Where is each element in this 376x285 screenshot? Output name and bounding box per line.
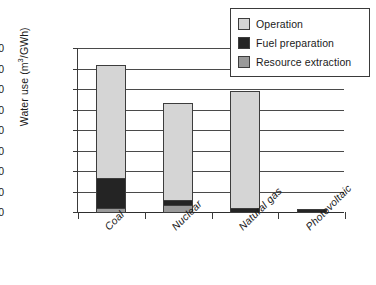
x-axis-tick-label: Photovoltaic <box>303 182 354 233</box>
y-axis-tick-label: 1500 <box>0 145 4 157</box>
y-tick-mark <box>73 89 78 90</box>
x-tick-mark <box>145 212 146 219</box>
y-tick-mark <box>73 110 78 111</box>
y-tick-mark <box>73 69 78 70</box>
y-axis-title: Water use (m3/GWh) <box>16 0 30 162</box>
y-tick-mark <box>73 151 78 152</box>
legend-swatch-icon <box>238 56 250 68</box>
y-axis-title-suffix: /GWh) <box>18 27 30 58</box>
y-axis-tick-label: 2000 <box>0 124 4 136</box>
y-axis-tick-label: 500 <box>0 186 4 198</box>
bar-segment-operation <box>230 91 260 209</box>
x-tick-mark <box>278 212 279 219</box>
y-axis-tick-label: 3500 <box>0 63 4 75</box>
chart-legend: OperationFuel preparationResource extrac… <box>230 8 370 77</box>
bar-nuclear <box>163 103 193 212</box>
x-tick-mark <box>212 212 213 219</box>
y-axis-tick-label: 4000 <box>0 42 4 54</box>
legend-item: Fuel preparation <box>238 33 363 52</box>
legend-item-label: Fuel preparation <box>256 37 334 49</box>
bar-coal <box>96 65 126 212</box>
legend-swatch-icon <box>238 37 250 49</box>
y-tick-mark <box>73 48 78 49</box>
legend-item-label: Resource extraction <box>256 56 351 68</box>
legend-item-label: Operation <box>256 18 303 30</box>
legend-item: Resource extraction <box>238 52 363 71</box>
x-tick-mark <box>78 212 79 219</box>
bar-natural-gas <box>230 91 260 212</box>
bar-segment-fuel-preparation <box>96 178 126 209</box>
water-use-stacked-bar-chart: Water use (m3/GWh) 050010001500200025003… <box>0 0 376 285</box>
y-axis-title-superscript: 3 <box>16 58 25 62</box>
y-tick-mark <box>73 171 78 172</box>
y-axis-tick-label: 1000 <box>0 165 4 177</box>
y-axis-title-prefix: Water use (m <box>18 62 30 126</box>
y-axis-tick-label: 3000 <box>0 83 4 95</box>
y-tick-mark <box>73 192 78 193</box>
y-tick-mark <box>73 130 78 131</box>
y-axis-tick-label: 0 <box>0 206 4 218</box>
bar-segment-operation <box>163 103 193 201</box>
y-axis-tick-label: 2500 <box>0 104 4 116</box>
x-tick-mark <box>345 212 346 219</box>
bar-segment-operation <box>96 65 126 179</box>
legend-item: Operation <box>238 14 363 33</box>
legend-swatch-icon <box>238 18 250 30</box>
